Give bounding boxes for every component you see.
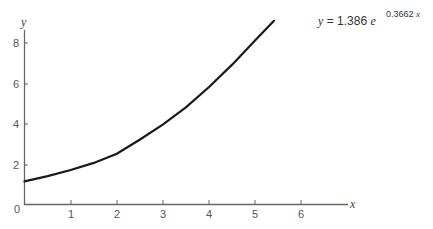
equation-exponent: 0.3662 x [386,9,420,19]
origin-label: 0 [14,203,20,215]
x-tick-label: 6 [298,208,304,220]
y-tick-label: 8 [13,37,19,49]
equation-annotation: y = 1.386 e [317,14,376,28]
x-tick-label: 4 [206,208,212,220]
x-tick-label: 2 [114,208,120,220]
y-tick-label: 6 [13,78,19,90]
x-axis-label: x [349,197,356,211]
y-tick-label: 2 [13,159,19,171]
y-axis-label: y [20,15,27,29]
x-tick-label: 3 [160,208,166,220]
exponential-curve [25,21,275,182]
x-tick-label: 5 [252,208,258,220]
y-tick-label: 4 [13,118,19,130]
x-ticks: 1 2 3 4 5 6 [68,200,304,220]
exponential-chart: y x 0 2 4 6 8 1 2 3 4 5 6 y = 1.386 e 0.… [0,0,433,229]
x-tick-label: 1 [68,208,74,220]
y-ticks: 2 4 6 8 [13,37,28,171]
